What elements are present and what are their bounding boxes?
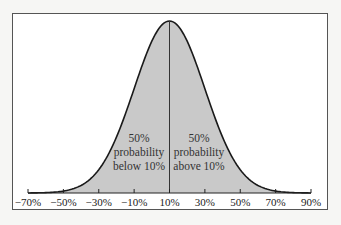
x-tick-label: 90% (301, 196, 321, 208)
normal-distribution-chart: −70%−50%−30%−10%10%30%50%70%90% 50% prob… (0, 0, 341, 225)
annotation-above-line-2: probability (174, 146, 225, 159)
x-tick-label: 50% (230, 196, 250, 208)
annotation-above-line-3: above 10% (173, 160, 225, 172)
x-tick-label: −10% (121, 196, 147, 208)
x-tick-label: −70% (15, 196, 41, 208)
x-tick-label: 70% (266, 196, 286, 208)
x-tick-label: −50% (50, 196, 76, 208)
annotation-below-line-2: probability (114, 146, 165, 159)
annotation-below-line-3: below 10% (113, 160, 165, 172)
x-tick-label: 10% (159, 196, 179, 208)
annotation-below-line-1: 50% (128, 132, 150, 144)
annotation-above-line-1: 50% (188, 132, 210, 144)
x-tick-label: 30% (195, 196, 215, 208)
x-tick-label: −30% (86, 196, 112, 208)
